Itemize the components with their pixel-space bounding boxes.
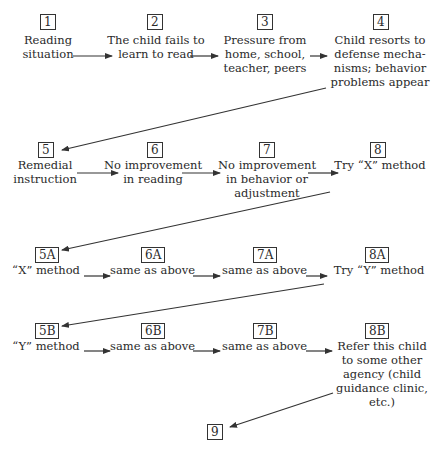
- text-line: “X” method: [8, 263, 84, 277]
- text-line: same as above: [110, 263, 194, 277]
- step-number-box: 4: [373, 14, 389, 30]
- text-line: No improvement: [218, 158, 316, 172]
- text-line: The child fails to: [104, 33, 208, 47]
- text-line: Try “X” method: [330, 158, 430, 172]
- text-line: Pressure from: [220, 33, 310, 47]
- text-line: instruction: [12, 172, 78, 186]
- step-number-box: 8B: [365, 323, 389, 339]
- step-6-text: No improvement in reading: [104, 158, 202, 186]
- step-number-box: 5: [38, 142, 54, 158]
- text-line: agency (child: [334, 367, 430, 381]
- text-line: Try “Y” method: [328, 263, 430, 277]
- text-line: learn to read: [104, 47, 208, 61]
- step-number-box: 9: [207, 424, 223, 440]
- text-line: home, school,: [220, 47, 310, 61]
- text-line: defense mecha-: [330, 47, 430, 61]
- step-number-box: 6: [147, 142, 163, 158]
- text-line: guidance clinic,: [334, 381, 430, 395]
- step-number-box: 2: [147, 14, 163, 30]
- text-line: same as above: [222, 339, 306, 353]
- step-6b-text: same as above: [110, 339, 194, 353]
- step-2-text: The child fails to learn to read: [104, 33, 208, 61]
- step-7a-text: same as above: [222, 263, 306, 277]
- text-line: No improvement: [104, 158, 202, 172]
- step-8b-text: Refer this child to some other agency (c…: [334, 339, 430, 409]
- step-6a-text: same as above: [110, 263, 194, 277]
- step-5a-text: “X” method: [8, 263, 84, 277]
- step-number-box: 8A: [365, 247, 389, 263]
- step-number-box: 7A: [253, 247, 277, 263]
- step-7-text: No improvement in behavior or adjustment: [218, 158, 316, 200]
- step-1-text: Reading situation: [18, 33, 78, 61]
- text-line: nisms; behavior: [330, 61, 430, 75]
- text-line: same as above: [222, 263, 306, 277]
- step-number-box: 1: [40, 14, 56, 30]
- step-number-box: 8: [370, 142, 386, 158]
- step-number-box: 3: [257, 14, 273, 30]
- step-8a-text: Try “Y” method: [328, 263, 430, 277]
- step-number-box: 7: [259, 142, 275, 158]
- text-line: Child resorts to: [330, 33, 430, 47]
- text-line: Reading: [18, 33, 78, 47]
- step-number-box: 6A: [141, 247, 165, 263]
- text-line: adjustment: [218, 186, 316, 200]
- step-7b-text: same as above: [222, 339, 306, 353]
- text-line: in reading: [104, 172, 202, 186]
- step-number-box: 5B: [35, 323, 59, 339]
- step-number-box: 7B: [253, 323, 277, 339]
- text-line: “Y” method: [8, 339, 84, 353]
- step-5-text: Remedial instruction: [12, 158, 78, 186]
- step-4-text: Child resorts to defense mecha- nisms; b…: [330, 33, 430, 89]
- text-line: Refer this child: [334, 339, 430, 353]
- step-8-text: Try “X” method: [330, 158, 430, 172]
- step-5b-text: “Y” method: [8, 339, 84, 353]
- text-line: etc.): [334, 395, 430, 409]
- text-line: in behavior or: [218, 172, 316, 186]
- text-line: situation: [18, 47, 78, 61]
- step-3-text: Pressure from home, school, teacher, pee…: [220, 33, 310, 75]
- step-number-box: 6B: [141, 323, 165, 339]
- text-line: to some other: [334, 353, 430, 367]
- step-number-box: 5A: [35, 247, 59, 263]
- text-line: teacher, peers: [220, 61, 310, 75]
- text-line: Remedial: [12, 158, 78, 172]
- text-line: problems appear: [330, 75, 430, 89]
- text-line: same as above: [110, 339, 194, 353]
